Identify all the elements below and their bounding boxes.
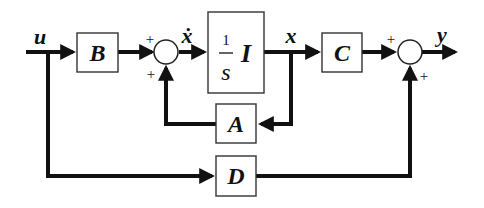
block-a-label: A bbox=[226, 111, 244, 137]
block-d: D bbox=[216, 156, 256, 196]
block-d-label: D bbox=[226, 163, 244, 189]
block-b-label: B bbox=[88, 40, 105, 66]
block-b: B bbox=[77, 33, 118, 72]
block-integrator: 1 s I bbox=[208, 12, 264, 93]
signal-xdot-label: ẋ bbox=[181, 23, 193, 48]
sum2-bottom-sign: + bbox=[420, 68, 428, 84]
integrator-matrix: I bbox=[240, 39, 252, 68]
block-c: C bbox=[322, 33, 362, 72]
sum2-top-sign: + bbox=[387, 31, 395, 47]
sum-junction-1: + + bbox=[146, 31, 178, 82]
integrator-denominator: s bbox=[221, 59, 230, 85]
signal-x-label: x bbox=[285, 23, 297, 48]
signal-u-label: u bbox=[34, 24, 46, 49]
wire-x-to-a bbox=[261, 52, 291, 124]
wire-u-to-d bbox=[48, 52, 212, 176]
sum1-top-sign: + bbox=[146, 31, 154, 47]
integrator-numerator: 1 bbox=[222, 32, 230, 48]
block-c-label: C bbox=[334, 40, 351, 66]
sum-junction-2: + + bbox=[387, 31, 428, 84]
block-a: A bbox=[216, 104, 256, 143]
signal-y-label: y bbox=[434, 22, 447, 47]
sum1-bottom-sign: + bbox=[147, 66, 155, 82]
block-diagram: B 1 s I C A D + + + + u ẋ x y bbox=[0, 0, 484, 208]
